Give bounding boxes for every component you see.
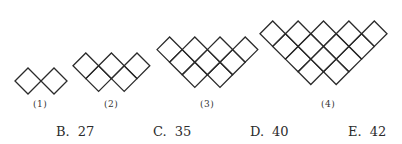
option-e[interactable]: E.42 [348,124,386,139]
diamond-square [73,53,99,79]
diamond-square [349,34,374,59]
option-d-letter: D. [250,124,264,139]
diamond-square [324,34,349,59]
option-b-letter: B. [56,124,70,139]
diamond-square [336,21,361,46]
option-e-value: 42 [370,124,387,139]
option-d-value: 40 [272,124,289,139]
diamond-square [336,46,361,71]
option-e-letter: E. [348,124,362,139]
diamond-square [99,53,125,79]
diamond-square [157,37,182,62]
figure-4-label: (4) [321,99,335,109]
diamond-square [86,66,112,92]
figure-1 [15,68,67,94]
diamond-square [170,50,195,75]
figure-2-label: (2) [104,99,118,109]
diamond-square [324,59,349,84]
figure-3 [157,37,258,87]
diamond-square [207,62,232,87]
diamond-square [298,34,323,59]
diamond-square [207,37,232,62]
diamond-square [195,50,220,75]
diamond-square [285,21,310,46]
figure-4 [260,21,387,85]
figure-sequence [0,0,402,144]
diamond-square [311,21,336,46]
diamond-square [298,59,323,84]
diamond-square [311,46,336,71]
figure-3-label: (3) [200,99,214,109]
diamond-square [111,66,137,92]
diamond-square [362,21,387,46]
diamond-square [233,37,258,62]
diamond-square [220,50,245,75]
option-b-value: 27 [78,124,95,139]
figure-2 [73,53,150,91]
diamond-square [41,68,67,94]
diamond-square [182,62,207,87]
diamond-square [182,37,207,62]
option-b[interactable]: B.27 [56,124,94,139]
figure-1-label: (1) [33,99,47,109]
option-c-letter: C. [153,124,167,139]
diamond-square [285,46,310,71]
option-c-value: 35 [175,124,192,139]
option-d[interactable]: D.40 [250,124,289,139]
diamond-square [124,53,150,79]
option-c[interactable]: C.35 [153,124,191,139]
diamond-square [15,68,41,94]
diamond-square [260,21,285,46]
diamond-square [273,34,298,59]
